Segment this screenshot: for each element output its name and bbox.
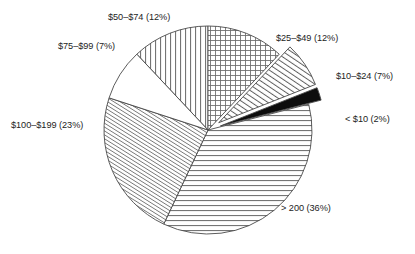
slice-label-10-24: $10–$24 (7%) xyxy=(336,71,393,82)
slice-label-50-74: $50–$74 (12%) xyxy=(108,12,170,23)
slice-label-under-10: < $10 (2%) xyxy=(345,114,390,125)
slice-label-25-49: $25–$49 (12%) xyxy=(276,33,338,44)
slice-label-75-99: $75–$99 (7%) xyxy=(58,41,115,52)
slice-label-100-199: $100–$199 (23%) xyxy=(11,120,83,131)
slice-label-over-200: > 200 (36%) xyxy=(281,203,331,214)
pie-chart-figure: $50–$74 (12%) $25–$49 (12%) $10–$24 (7%)… xyxy=(0,0,415,254)
